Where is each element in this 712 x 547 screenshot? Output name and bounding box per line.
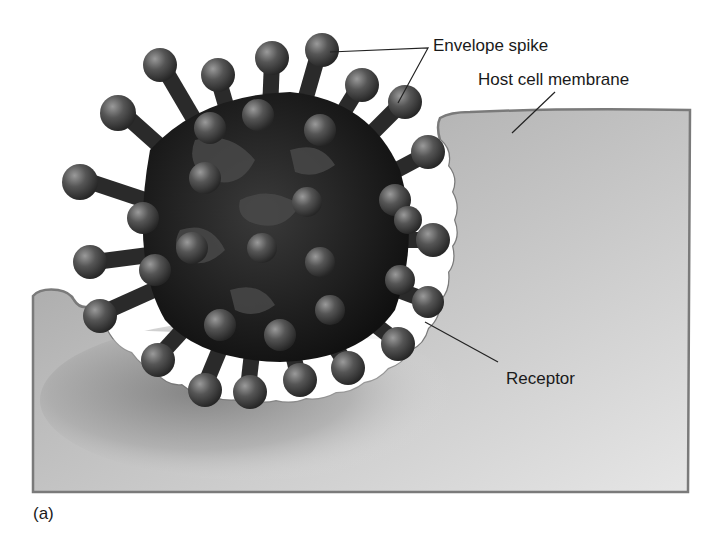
host-cell-membrane-label: Host cell membrane bbox=[478, 71, 629, 88]
envelope-spike-label: Envelope spike bbox=[433, 37, 548, 54]
panel-label: (a) bbox=[33, 505, 54, 522]
receptor-label: Receptor bbox=[506, 370, 575, 387]
